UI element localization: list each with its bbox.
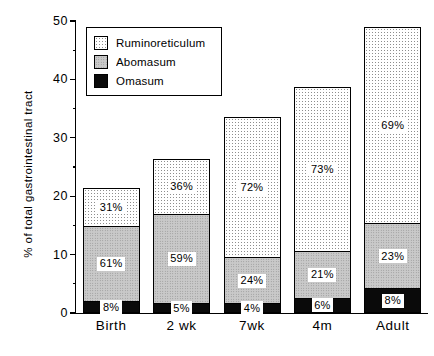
bar-segment-ruminoreticulum[interactable]: 73% — [295, 88, 350, 252]
x-tick-label: 7wk — [217, 318, 287, 333]
y-tick-label: 0 — [61, 306, 68, 320]
bar-segment-ruminoreticulum[interactable]: 31% — [84, 189, 139, 227]
bar-segment-value-label: 24% — [238, 274, 266, 288]
legend-label: Ruminoreticulum — [116, 37, 205, 49]
y-tick-label: 10 — [53, 248, 68, 262]
x-axis-tick-labels: Birth2 wk7wk4mAdult — [76, 318, 428, 346]
x-tick-label: 2 wk — [146, 318, 216, 333]
bar-segment-omasum[interactable]: 4% — [225, 304, 280, 312]
stacked-bar-chart: % of total gastrointestinal tract 010203… — [0, 0, 434, 356]
y-tick-label: 20 — [53, 189, 68, 203]
legend-item-abomasum: Abomasum — [94, 52, 215, 71]
bar-segment-value-label: 73% — [308, 162, 336, 176]
bar-segment-ruminoreticulum[interactable]: 36% — [154, 160, 209, 215]
x-tick-label: 4m — [287, 318, 357, 333]
bar-segment-abomasum[interactable]: 61% — [84, 227, 139, 302]
bar-segment-value-label: 21% — [308, 268, 336, 282]
bar-segment-value-label: 59% — [168, 252, 196, 266]
bar-group[interactable]: 5%59%36% — [153, 159, 210, 313]
legend-label: Omasum — [116, 75, 164, 87]
bar-segment-value-label: 6% — [312, 298, 334, 312]
legend-label: Abomasum — [116, 56, 176, 68]
bar-group[interactable]: 8%61%31% — [83, 188, 140, 313]
bar-segment-value-label: 61% — [97, 257, 125, 271]
bar-segment-value-label: 23% — [379, 249, 407, 263]
x-tick-label: Adult — [358, 318, 428, 333]
x-tick-label: Birth — [76, 318, 146, 333]
y-tick-label: 30 — [53, 131, 68, 145]
bar-segment-abomasum[interactable]: 24% — [225, 258, 280, 304]
y-tick-label: 40 — [53, 72, 68, 86]
bar-segment-abomasum[interactable]: 21% — [295, 252, 350, 299]
bar-segment-ruminoreticulum[interactable]: 69% — [365, 28, 420, 224]
legend-swatch-abomasum-icon — [94, 55, 108, 69]
legend-item-ruminoreticulum: Ruminoreticulum — [94, 33, 215, 52]
bar-segment-value-label: 8% — [382, 294, 404, 308]
bar-segment-abomasum[interactable]: 59% — [154, 215, 209, 305]
y-tick-label: 50 — [53, 14, 68, 28]
bar-segment-value-label: 36% — [168, 180, 196, 194]
bar-segment-omasum[interactable]: 5% — [154, 304, 209, 312]
bar-segment-ruminoreticulum[interactable]: 72% — [225, 118, 280, 258]
y-axis-title: % of total gastrointestinal tract — [22, 24, 34, 324]
bar-segment-value-label: 69% — [379, 118, 407, 132]
legend-swatch-omasum-icon — [94, 74, 108, 88]
bar-group[interactable]: 4%24%72% — [224, 117, 281, 313]
chart-legend: Ruminoreticulum Abomasum Omasum — [86, 27, 222, 96]
bar-segment-value-label: 72% — [238, 181, 266, 195]
bar-segment-value-label: 8% — [100, 300, 122, 314]
bar-segment-value-label: 5% — [171, 301, 193, 315]
bar-group[interactable]: 6%21%73% — [294, 87, 351, 313]
bar-group[interactable]: 8%23%69% — [364, 27, 421, 313]
bar-segment-value-label: 31% — [97, 200, 125, 214]
bar-segment-value-label: 4% — [241, 301, 263, 315]
bar-segment-omasum[interactable]: 8% — [84, 302, 139, 312]
bar-segment-omasum[interactable]: 6% — [295, 299, 350, 312]
legend-item-omasum: Omasum — [94, 71, 215, 90]
legend-swatch-ruminoreticulum-icon — [94, 36, 108, 50]
bar-segment-abomasum[interactable]: 23% — [365, 224, 420, 290]
bar-segment-omasum[interactable]: 8% — [365, 289, 420, 312]
